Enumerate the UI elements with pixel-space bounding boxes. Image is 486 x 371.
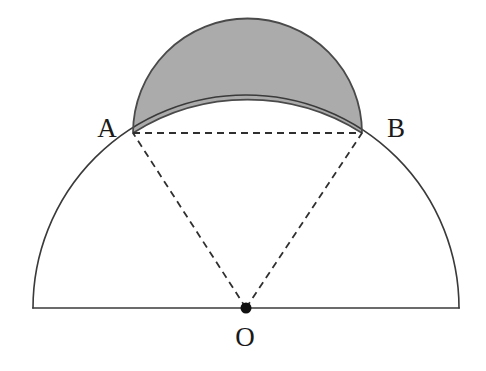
center-point-dot bbox=[241, 303, 252, 314]
vertex-label-o: O bbox=[235, 324, 255, 351]
vertex-label-b: B bbox=[387, 115, 405, 142]
geometry-figure: A B O bbox=[0, 0, 486, 371]
geometry-canvas bbox=[0, 0, 486, 371]
vertex-label-a: A bbox=[97, 115, 117, 142]
